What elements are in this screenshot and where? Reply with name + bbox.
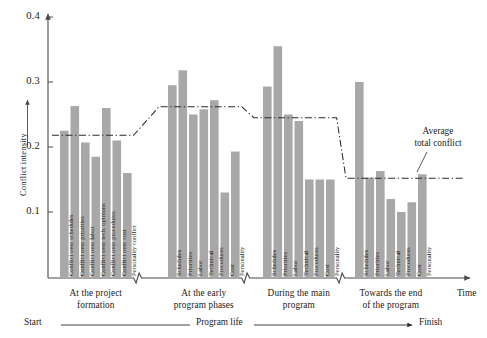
group-caption: During the main [247, 288, 351, 300]
bar-category-label: Schedules [270, 249, 277, 275]
group-caption: At the early [152, 288, 256, 300]
y-axis-tick-label: 0.1 [14, 205, 40, 216]
bar-category-label: Conflict over priorities [78, 216, 85, 276]
group-caption: Towards the end [339, 288, 443, 300]
bar-category-label: Conflict over procedures [109, 211, 116, 276]
bar-category-label: Labor [291, 260, 298, 276]
bar-category-label: Schedules [175, 249, 182, 275]
bar-category-label: Conflict over cost [120, 229, 127, 276]
bar-category-label: Personality [238, 246, 245, 275]
group-caption: At the project [44, 288, 148, 300]
chart-figure: 0.10.20.30.4Conflict intensityConflict o… [0, 0, 487, 338]
group-caption: program phases [152, 300, 256, 312]
bar-category-label: Procedures [217, 247, 224, 276]
bar-category-label: Technical [302, 250, 309, 275]
bar-category-label: Procedures [312, 247, 319, 276]
average-total-conflict-annotation: total conflict [396, 138, 480, 150]
group-caption: program [247, 300, 351, 312]
bar-category-label: Cost [415, 264, 422, 276]
y-axis-tick-label: 0.3 [14, 75, 40, 86]
bar-category-label: Procedures [404, 247, 411, 276]
bar-category-label: Schedules [362, 249, 369, 275]
bar-category-label: Labor [196, 260, 203, 276]
y-axis-title: Conflict intensity [18, 133, 28, 196]
bar-category-label: Personality [425, 246, 432, 275]
average-total-conflict-annotation: Average [396, 126, 480, 138]
group-caption: formation [44, 300, 148, 312]
bar-category-label: Conflict over schedules [67, 214, 74, 276]
bar-category-label: Conflict over labor [88, 226, 95, 276]
group-caption: of the program [339, 300, 443, 312]
bar-category-label: Priorities [281, 252, 288, 276]
bar [274, 46, 283, 278]
bar [355, 82, 364, 278]
x-axis-title: Time [457, 288, 476, 298]
bar-category-label: Personality conflict [130, 225, 137, 276]
bar-category-label: Personality [333, 246, 340, 275]
bar-category-label: Technical [394, 250, 401, 275]
y-axis-tick-label: 0.4 [14, 10, 40, 21]
bar-category-label: Labor [383, 260, 390, 276]
bar-category-label: Cost [323, 264, 330, 276]
timeline-finish-label: Finish [419, 317, 442, 327]
bar-category-label: Priorities [373, 252, 380, 276]
timeline-middle-label: Program life [196, 317, 243, 327]
bar-category-label: Conflict over tech. opinions [99, 203, 106, 276]
annotation-leader-line [417, 152, 427, 172]
bar-category-label: Cost [228, 264, 235, 276]
bar-category-label: Priorities [186, 252, 193, 276]
timeline-start-label: Start [24, 317, 42, 327]
bar [179, 70, 188, 278]
bar-category-label: Technical [207, 250, 214, 275]
